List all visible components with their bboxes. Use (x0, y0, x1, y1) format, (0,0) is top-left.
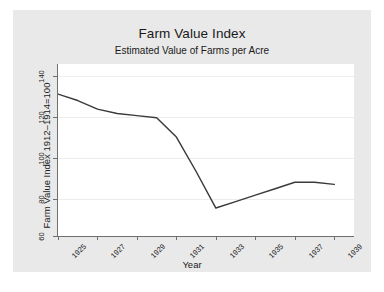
x-tick-label-1927: 1927 (109, 242, 127, 260)
x-tick-1927 (97, 236, 98, 240)
x-tick-1935 (255, 236, 256, 240)
figure-caption (13, 276, 371, 288)
x-tick-1933 (216, 236, 217, 240)
x-axis-title: Year (13, 259, 371, 270)
x-tick-1937 (295, 236, 296, 240)
x-tick-1925 (58, 236, 59, 240)
y-tick-80 (53, 199, 57, 200)
y-tick-60 (53, 236, 57, 237)
y-tick-120 (53, 117, 57, 118)
x-tick-label-1929: 1929 (149, 242, 167, 260)
chart-subtitle: Estimated Value of Farms per Acre (13, 45, 371, 56)
x-axis-line (57, 236, 354, 237)
y-axis-title: Farm Value Index 1912–1914=100 (41, 61, 52, 251)
x-tick-label-1939: 1939 (346, 242, 364, 260)
plot-area (58, 64, 354, 236)
x-tick-1939 (334, 236, 335, 240)
x-tick-label-1935: 1935 (267, 242, 285, 260)
x-tick-1929 (137, 236, 138, 240)
y-tick-140 (53, 76, 57, 77)
x-tick-label-1933: 1933 (228, 242, 246, 260)
data-series-line (58, 64, 354, 236)
x-tick-1931 (176, 236, 177, 240)
chart-title: Farm Value Index (13, 26, 371, 41)
y-tick-100 (53, 158, 57, 159)
x-tick-label-1925: 1925 (70, 242, 88, 260)
x-tick-label-1931: 1931 (188, 242, 206, 260)
chart-root: Farm Value Index Estimated Value of Farm… (0, 0, 384, 292)
figure-panel: Farm Value Index Estimated Value of Farm… (13, 10, 371, 272)
x-tick-label-1937: 1937 (307, 242, 325, 260)
y-axis-line (57, 64, 58, 237)
